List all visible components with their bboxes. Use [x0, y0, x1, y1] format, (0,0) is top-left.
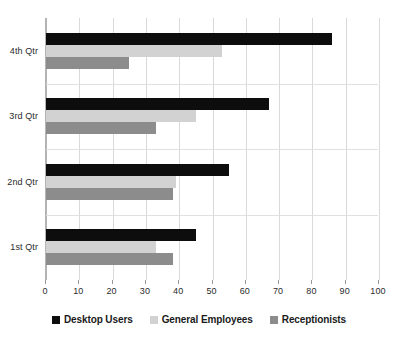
x-axis-label-0: 0: [42, 286, 47, 296]
y-axis-label-1st-qtr: 1st Qtr: [10, 242, 38, 252]
bar-general-employees-4th-qtr[interactable]: [46, 45, 222, 57]
plot-area: [45, 18, 378, 280]
chart-legend: Desktop UsersGeneral EmployeesReceptioni…: [0, 314, 398, 325]
x-axis-tick-80: [311, 280, 312, 284]
legend-swatch-receptionists-icon: [270, 316, 278, 324]
legend-item-receptionists[interactable]: Receptionists: [270, 314, 346, 325]
bar-receptionists-3rd-qtr[interactable]: [46, 122, 156, 134]
bar-receptionists-1st-qtr[interactable]: [46, 253, 173, 265]
bar-general-employees-3rd-qtr[interactable]: [46, 110, 196, 122]
bar-receptionists-2nd-qtr[interactable]: [46, 188, 173, 200]
x-axis-tick-30: [145, 280, 146, 284]
x-axis-tick-60: [245, 280, 246, 284]
legend-label-receptionists: Receptionists: [282, 314, 346, 325]
bar-group-2nd-qtr: [46, 164, 378, 200]
bar-receptionists-4th-qtr[interactable]: [46, 57, 129, 69]
x-axis-label-70: 70: [273, 286, 283, 296]
bar-group-4th-qtr: [46, 33, 378, 69]
x-axis-tick-90: [345, 280, 346, 284]
bar-desktop-users-1st-qtr[interactable]: [46, 229, 196, 241]
bar-group-3rd-qtr: [46, 98, 378, 134]
x-axis-tick-50: [212, 280, 213, 284]
x-axis-label-90: 90: [340, 286, 350, 296]
bar-group-1st-qtr: [46, 229, 378, 265]
x-axis-tick-70: [278, 280, 279, 284]
bar-general-employees-1st-qtr[interactable]: [46, 241, 156, 253]
x-axis-label-40: 40: [173, 286, 183, 296]
legend-item-desktop-users[interactable]: Desktop Users: [52, 314, 133, 325]
legend-label-general-employees: General Employees: [162, 314, 253, 325]
x-axis-label-10: 10: [73, 286, 83, 296]
legend-label-desktop-users: Desktop Users: [64, 314, 133, 325]
bars-layer: [46, 18, 378, 280]
x-axis-label-50: 50: [206, 286, 216, 296]
gridline-100: [379, 18, 380, 280]
legend-swatch-desktop-users-icon: [52, 316, 60, 324]
x-axis-tick-10: [78, 280, 79, 284]
x-axis-tick-40: [178, 280, 179, 284]
y-axis-label-4th-qtr: 4th Qtr: [10, 46, 38, 56]
x-axis-label-20: 20: [106, 286, 116, 296]
legend-swatch-general-employees-icon: [150, 316, 158, 324]
bar-chart: 1st Qtr2nd Qtr3rd Qtr4th Qtr 01020304050…: [0, 0, 398, 339]
bar-desktop-users-4th-qtr[interactable]: [46, 33, 332, 45]
x-axis-label-100: 100: [370, 286, 385, 296]
x-axis-tick-100: [378, 280, 379, 284]
legend-item-general-employees[interactable]: General Employees: [150, 314, 253, 325]
x-axis-label-80: 80: [306, 286, 316, 296]
x-axis: 0102030405060708090100: [45, 280, 378, 300]
bar-general-employees-2nd-qtr[interactable]: [46, 176, 176, 188]
x-axis-tick-0: [45, 280, 46, 284]
y-axis-label-3rd-qtr: 3rd Qtr: [9, 111, 38, 121]
x-axis-label-30: 30: [140, 286, 150, 296]
y-axis-label-2nd-qtr: 2nd Qtr: [7, 177, 38, 187]
y-axis-category-labels: 1st Qtr2nd Qtr3rd Qtr4th Qtr: [0, 18, 42, 280]
bar-desktop-users-3rd-qtr[interactable]: [46, 98, 269, 110]
bar-desktop-users-2nd-qtr[interactable]: [46, 164, 229, 176]
x-axis-tick-20: [112, 280, 113, 284]
x-axis-label-60: 60: [240, 286, 250, 296]
